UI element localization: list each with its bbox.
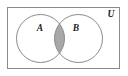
venn-diagram-canvas: A B U <box>0 0 128 76</box>
set-a-label: A <box>36 23 43 33</box>
universal-set-label: U <box>108 9 116 19</box>
set-b-label: B <box>72 23 79 33</box>
venn-diagram-figure: A B U <box>0 0 128 76</box>
